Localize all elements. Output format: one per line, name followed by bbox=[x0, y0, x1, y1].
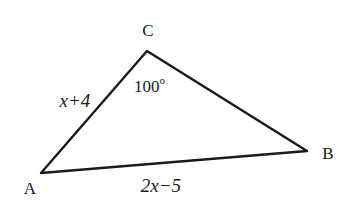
vertex-label-b: B bbox=[322, 144, 333, 163]
vertex-label-c: C bbox=[142, 21, 153, 40]
side-label-ab: 2x−5 bbox=[141, 175, 181, 196]
angle-value: 100 bbox=[134, 77, 160, 96]
side-label-ac: x+4 bbox=[59, 90, 91, 111]
triangle-abc bbox=[41, 51, 307, 173]
degree-symbol: o bbox=[160, 74, 166, 86]
angle-label-c: 100o bbox=[134, 74, 166, 96]
triangle-diagram: C A B x+4 2x−5 100o bbox=[0, 0, 349, 201]
vertex-label-a: A bbox=[24, 179, 37, 198]
